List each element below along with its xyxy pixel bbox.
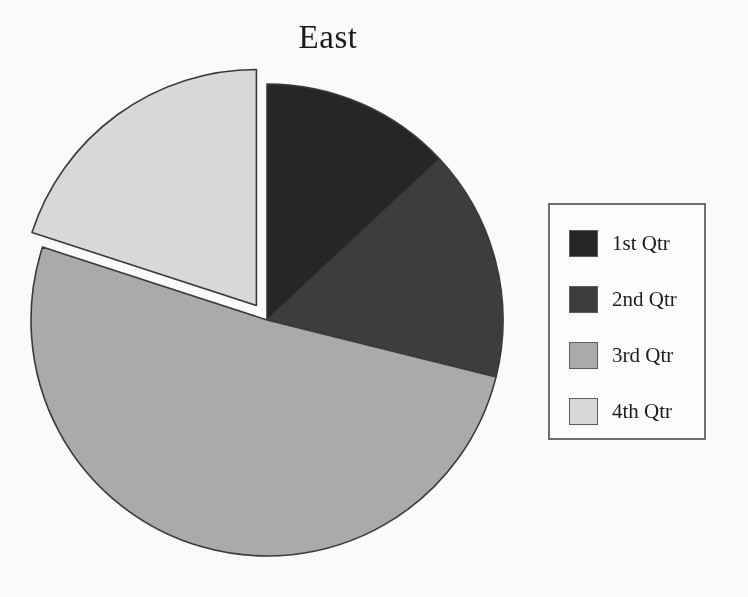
pie-slices-group bbox=[31, 69, 503, 556]
legend-item-label: 2nd Qtr bbox=[612, 287, 677, 311]
legend-item-1[interactable]: 1st Qtr bbox=[569, 224, 704, 262]
legend-swatch-icon bbox=[569, 398, 598, 425]
legend-item-label: 1st Qtr bbox=[612, 231, 670, 255]
legend-item-label: 3rd Qtr bbox=[612, 343, 673, 367]
legend-item-3[interactable]: 3rd Qtr bbox=[569, 336, 704, 374]
pie-chart-figure: East 1st Qtr2nd Qtr3rd Qtr4th Qtr bbox=[0, 0, 748, 597]
legend-item-4[interactable]: 4th Qtr bbox=[569, 392, 704, 430]
chart-title: East bbox=[0, 17, 748, 57]
legend-item-list: 1st Qtr2nd Qtr3rd Qtr4th Qtr bbox=[550, 205, 704, 438]
legend-swatch-icon bbox=[569, 230, 598, 257]
legend-swatch-icon bbox=[569, 286, 598, 313]
legend-swatch-icon bbox=[569, 342, 598, 369]
legend-item-2[interactable]: 2nd Qtr bbox=[569, 280, 704, 318]
chart-legend: 1st Qtr2nd Qtr3rd Qtr4th Qtr bbox=[548, 203, 706, 440]
legend-item-label: 4th Qtr bbox=[612, 399, 672, 423]
